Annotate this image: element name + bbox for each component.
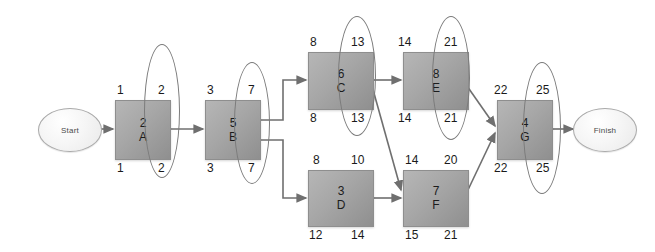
node-g-name: G [520, 130, 529, 145]
node-g-duration: 4 [522, 116, 529, 130]
node-g-ef: 25 [536, 84, 549, 96]
node-c-lf: 13 [351, 112, 364, 124]
node-g-ls: 22 [494, 162, 507, 174]
node-f-es: 14 [405, 154, 418, 166]
node-d-lf: 14 [351, 229, 364, 241]
edge-b-c [259, 80, 306, 120]
node-c-ef: 13 [351, 36, 364, 48]
node-f-name: F [432, 198, 439, 213]
node-b-lf: 7 [248, 162, 255, 174]
node-f-duration: 7 [433, 184, 440, 198]
node-c-ls: 8 [310, 112, 317, 124]
node-d-es: 8 [313, 154, 320, 166]
node-b-es: 3 [207, 84, 214, 96]
node-a-es: 1 [117, 84, 124, 96]
node-e-ls: 14 [398, 112, 411, 124]
network-diagram-canvas: Start Finish 1 2 2 A 1 2 3 7 5 B 3 7 8 1… [0, 0, 655, 252]
node-a-ef: 2 [158, 84, 165, 96]
node-d-name: D [337, 198, 346, 213]
finish-label: Finish [594, 126, 617, 135]
node-f-ef: 20 [444, 154, 457, 166]
node-f-ls: 15 [405, 229, 418, 241]
node-c-es: 8 [310, 36, 317, 48]
finish-node: Finish [573, 108, 637, 152]
node-e-duration: 8 [433, 67, 440, 81]
edge-b-d [259, 140, 306, 198]
node-c-box[interactable]: 6 C [308, 52, 374, 110]
node-e-ef: 21 [444, 36, 457, 48]
node-b-name: B [229, 130, 237, 145]
node-a-lf: 2 [158, 162, 165, 174]
node-d-ls: 12 [309, 229, 322, 241]
node-g-lf: 25 [536, 162, 549, 174]
start-node: Start [38, 108, 102, 152]
edge-e-g [467, 86, 495, 126]
node-d-box[interactable]: 3 D [308, 170, 374, 227]
node-b-box[interactable]: 5 B [205, 100, 261, 160]
node-e-box[interactable]: 8 E [403, 52, 469, 110]
node-b-ls: 3 [207, 162, 214, 174]
start-label: Start [61, 126, 79, 135]
edge-f-g [467, 133, 495, 192]
node-a-ls: 1 [117, 162, 124, 174]
edge-c-f [372, 86, 401, 190]
node-c-name: C [337, 81, 346, 96]
node-f-box[interactable]: 7 F [403, 170, 469, 227]
node-a-name: A [139, 130, 147, 145]
node-d-duration: 3 [338, 184, 345, 198]
node-f-lf: 21 [444, 229, 457, 241]
node-d-ef: 10 [351, 154, 364, 166]
node-g-es: 22 [494, 84, 507, 96]
node-a-box[interactable]: 2 A [115, 100, 171, 160]
node-e-name: E [432, 81, 440, 96]
node-c-duration: 6 [338, 67, 345, 81]
node-a-duration: 2 [140, 116, 147, 130]
node-b-ef: 7 [248, 84, 255, 96]
node-g-box[interactable]: 4 G [497, 100, 553, 160]
node-b-duration: 5 [230, 116, 237, 130]
node-e-es: 14 [398, 36, 411, 48]
node-e-lf: 21 [444, 112, 457, 124]
